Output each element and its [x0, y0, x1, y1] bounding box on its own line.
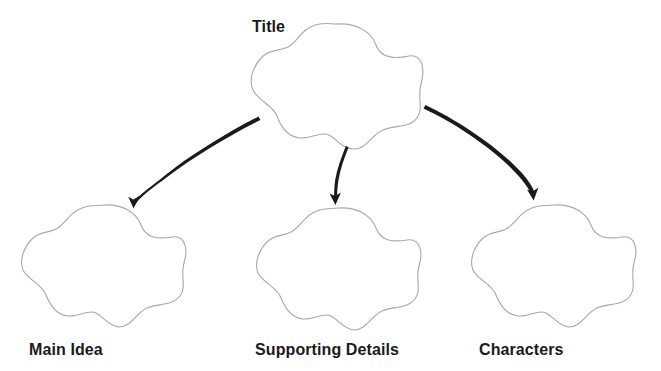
arrow-title-to-characters: [424, 105, 539, 201]
node-main-idea[interactable]: [22, 205, 186, 327]
arrow-title-to-main-idea: [128, 117, 260, 209]
arrow-title-to-characters-body: [424, 105, 536, 196]
arrow-title-to-main-idea-head: [128, 196, 139, 209]
organizer-canvas: [0, 0, 661, 371]
arrow-title-to-supporting-details: [330, 146, 349, 205]
node-title-shape: [251, 23, 423, 149]
arrow-title-to-main-idea-body: [132, 117, 260, 205]
arrow-title-to-supporting-details-body: [334, 146, 348, 201]
node-label-title: Title: [252, 18, 285, 36]
node-title[interactable]: [251, 23, 423, 149]
node-characters-shape: [472, 205, 636, 327]
node-main-idea-shape: [22, 205, 186, 327]
node-characters[interactable]: [472, 205, 636, 327]
node-supporting-details-shape: [257, 208, 421, 330]
node-label-main-idea: Main Idea: [29, 341, 103, 359]
node-supporting-details[interactable]: [257, 208, 421, 330]
node-label-supporting-details: Supporting Details: [255, 341, 399, 359]
node-label-characters: Characters: [479, 341, 564, 359]
